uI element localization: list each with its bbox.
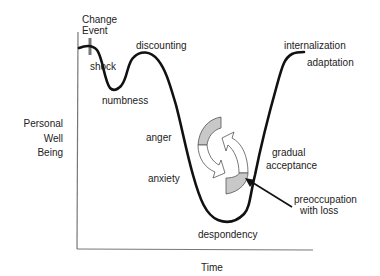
cycle-arrow-white-left-icon [198,145,225,178]
callout-preoccupation-with-loss: preoccupation with loss [294,194,357,216]
callout-line2: with loss [294,205,357,216]
cycle-arrow-gray-bottom-icon [226,173,248,194]
stage-numbness: numbness [102,95,148,106]
callout-line1: preoccupation [294,194,357,205]
x-axis [77,249,313,250]
callout-arrow-line [250,181,292,207]
cycle-arrow-gray-top-icon [198,117,221,145]
gradual-acceptance-line2: acceptance [266,159,317,172]
stage-shock: shock [90,61,116,72]
y-axis-label-line2: Well [8,132,63,147]
change-event-label-line2: Event [82,25,117,36]
cycle-arrow-white-right-icon [222,132,248,173]
stage-gradual-acceptance: gradual acceptance [266,146,317,172]
change-event-label-line1: Change [82,14,117,25]
change-curve [79,46,304,222]
stage-internalization: internalization [284,40,346,51]
stage-anger: anger [146,132,172,143]
stage-discounting: discounting [136,40,187,51]
stage-anxiety: anxiety [148,173,180,184]
y-axis-label: Personal Well Being [8,117,63,161]
stage-adaptation: adaptation [307,57,354,68]
y-axis-label-line1: Personal [8,117,63,132]
change-event-label: Change Event [82,14,117,36]
gradual-acceptance-line1: gradual [266,146,317,159]
x-axis-label: Time [201,262,223,273]
y-axis-label-line3: Being [8,146,63,161]
y-axis [77,32,78,249]
stage-despondency: despondency [198,229,258,240]
